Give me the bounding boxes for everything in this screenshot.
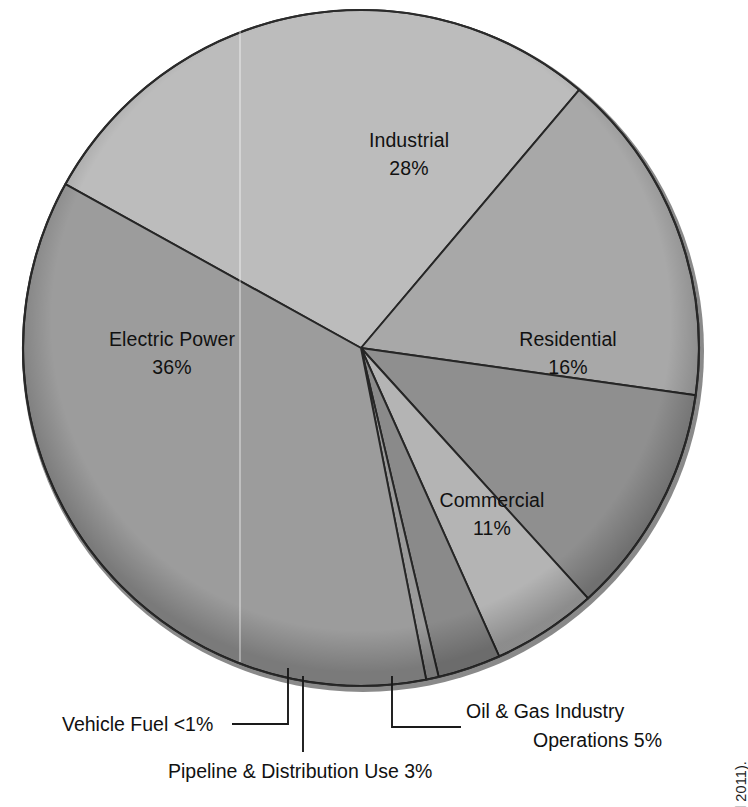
slice-label-residential: Residential 16% [494, 325, 642, 381]
callout-oil-gas-line2: Operations 5% [466, 726, 696, 755]
slice-label-commercial-name: Commercial [418, 486, 566, 514]
slice-label-electric-power-value: 36% [98, 353, 246, 381]
slice-label-industrial: Industrial 28% [334, 126, 484, 182]
callout-vehicle-fuel: Vehicle Fuel <1% [62, 710, 213, 739]
pie-chart-svg [0, 0, 748, 807]
slice-label-residential-value: 16% [494, 353, 642, 381]
slice-label-industrial-value: 28% [334, 154, 484, 182]
slice-label-industrial-name: Industrial [334, 126, 484, 154]
callout-oil-gas: Oil & Gas Industry Operations 5% [466, 697, 696, 755]
slice-label-electric-power-name: Electric Power [98, 325, 246, 353]
pie-chart-figure: Electric Power 36% Industrial 28% Reside… [0, 0, 748, 807]
slice-label-residential-name: Residential [494, 325, 642, 353]
callout-pipeline-distribution: Pipeline & Distribution Use 3% [168, 757, 432, 786]
slice-label-electric-power: Electric Power 36% [98, 325, 246, 381]
slice-label-commercial: Commercial 11% [418, 486, 566, 542]
callout-oil-gas-line1: Oil & Gas Industry [466, 697, 696, 726]
source-note: Source: U.S. Energy Information Administ… [733, 761, 748, 807]
slice-label-commercial-value: 11% [418, 514, 566, 542]
